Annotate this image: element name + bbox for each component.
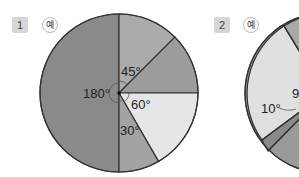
angle-label-45: 45°	[121, 64, 141, 79]
pie-chart-2	[245, 13, 299, 173]
angle-label-180: 180°	[83, 86, 110, 101]
angle-label-9-partial: 9	[292, 86, 299, 101]
angle-label-30: 30°	[120, 123, 140, 138]
angle-label-10: 10°	[261, 101, 281, 116]
angle-label-60: 60°	[131, 97, 151, 112]
pie-charts: 180° 45° 60° 30° 10° 9	[0, 0, 299, 177]
pie-chart-1	[40, 14, 198, 172]
